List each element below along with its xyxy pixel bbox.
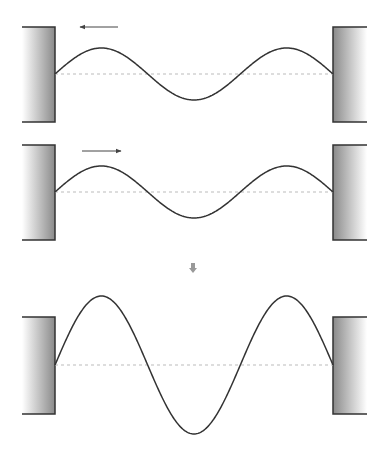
left-wall xyxy=(22,145,55,240)
wave-rightward-panel xyxy=(22,145,367,240)
standing-wave-diagram xyxy=(0,0,387,453)
standing-wave-sum-panel xyxy=(22,296,367,434)
wave-leftward-panel xyxy=(22,27,367,122)
down-arrow-icon xyxy=(189,263,197,273)
right-wall xyxy=(333,27,367,122)
right-wall xyxy=(333,317,367,414)
right-wall xyxy=(333,145,367,240)
left-wall xyxy=(22,27,55,122)
left-wall xyxy=(22,317,55,414)
